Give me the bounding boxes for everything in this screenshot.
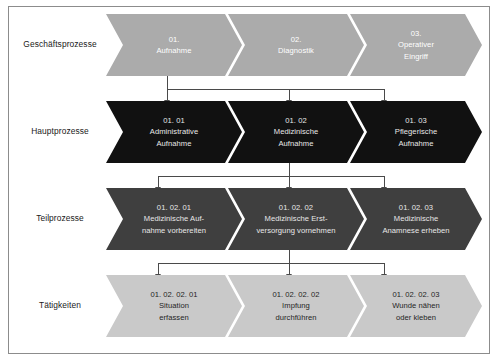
chevron-level1-item-3[interactable]: 03. Operativer Eingriff bbox=[350, 14, 482, 76]
chevron-level2-item-3-line-1: 01. 03 bbox=[405, 115, 426, 127]
chevron-level4-item-1-line-1: 01. 02. 02. 01 bbox=[150, 289, 197, 301]
chevron-level2-item-3-line-2: Pflegerische bbox=[395, 126, 437, 138]
diagram-frame-right-border bbox=[489, 6, 490, 354]
chevron-row-level4: 01. 02. 02. 01 Situation erfassen 01. 02… bbox=[106, 275, 482, 337]
chevron-level4-item-2-line-2: Impfung bbox=[282, 300, 310, 312]
chevron-level2-item-1-line-1: 01. 01 bbox=[163, 115, 184, 127]
chevron-level4-item-2-line-1: 01. 02. 02. 02 bbox=[272, 289, 319, 301]
row-label-teilprozesse: Teilprozesse bbox=[14, 214, 106, 223]
connector-3-bus bbox=[158, 263, 384, 264]
diagram-frame-left-border bbox=[8, 6, 9, 354]
chevron-level3-item-2-line-3: versorgung vornehmen bbox=[256, 225, 335, 237]
connector-1-bus bbox=[167, 89, 385, 90]
chevron-level3-item-2-line-2: Medizinische Erst- bbox=[265, 213, 328, 225]
chevron-level2-item-2-line-2: Medizinische bbox=[274, 126, 319, 138]
chevron-level1-item-1-line-1: 01. bbox=[169, 34, 180, 46]
chevron-row-level2: 01. 01 Administrative Aufnahme 01. 02 Me… bbox=[106, 101, 482, 163]
chevron-level1-item-2-line-2: Diagnostik bbox=[278, 45, 314, 57]
chevron-level4-item-1-line-3: erfassen bbox=[159, 312, 189, 324]
chevron-level2-item-3-line-3: Aufnahme bbox=[398, 138, 433, 150]
chevron-level2-item-1-line-3: Aufnahme bbox=[156, 138, 191, 150]
row-label-taetigkeiten: Tätigkeiten bbox=[14, 301, 106, 310]
chevron-level3-item-1[interactable]: 01. 02. 01 Medizinische Auf- nahme vorbe… bbox=[106, 188, 242, 250]
diagram-frame-top-border bbox=[8, 6, 490, 7]
chevron-row-level3: 01. 02. 01 Medizinische Auf- nahme vorbe… bbox=[106, 188, 482, 250]
chevron-level1-item-1-line-2: Aufnahme bbox=[156, 45, 191, 57]
chevron-level2-item-2-line-1: 01. 02 bbox=[285, 115, 306, 127]
chevron-level3-item-2-line-1: 01. 02. 02 bbox=[279, 202, 313, 214]
chevron-level4-item-3[interactable]: 01. 02. 02. 03 Wunde nähen oder kleben bbox=[350, 275, 482, 337]
chevron-level3-item-3-line-2: Medizinische bbox=[394, 213, 439, 225]
chevron-level3-item-2[interactable]: 01. 02. 02 Medizinische Erst- versorgung… bbox=[228, 188, 364, 250]
chevron-row-level1: 01. Aufnahme 02. Diagnostik 03. Operativ… bbox=[106, 14, 482, 76]
chevron-level2-item-3[interactable]: 01. 03 Pflegerische Aufnahme bbox=[350, 101, 482, 163]
chevron-level4-item-3-line-3: oder kleben bbox=[396, 312, 436, 324]
chevron-level1-item-3-line-2: Operativer bbox=[398, 39, 434, 51]
chevron-level2-item-1-line-2: Administrative bbox=[150, 126, 198, 138]
chevron-level1-item-2-line-1: 02. bbox=[291, 34, 302, 46]
row-label-geschaeftsprozesse: Geschäftsprozesse bbox=[14, 40, 106, 49]
chevron-level4-item-2-line-3: durchführen bbox=[275, 312, 316, 324]
chevron-level3-item-3-line-1: 01. 02. 03 bbox=[399, 202, 433, 214]
connector-2-bus bbox=[158, 176, 384, 177]
chevron-level4-item-1-line-2: Situation bbox=[159, 300, 189, 312]
chevron-level1-item-2[interactable]: 02. Diagnostik bbox=[228, 14, 364, 76]
chevron-level1-item-3-line-1: 03. bbox=[411, 28, 422, 40]
diagram-frame-bottom-border bbox=[8, 353, 490, 354]
chevron-level1-item-3-line-3: Eingriff bbox=[404, 51, 428, 63]
chevron-level4-item-3-line-2: Wunde nähen bbox=[392, 300, 440, 312]
chevron-level3-item-1-line-3: nahme vorbereiten bbox=[142, 225, 206, 237]
chevron-level3-item-3[interactable]: 01. 02. 03 Medizinische Anamnese erheben bbox=[350, 188, 482, 250]
chevron-level2-item-2[interactable]: 01. 02 Medizinische Aufnahme bbox=[228, 101, 364, 163]
chevron-level4-item-3-line-1: 01. 02. 02. 03 bbox=[392, 289, 439, 301]
chevron-level1-item-1[interactable]: 01. Aufnahme bbox=[106, 14, 242, 76]
chevron-level3-item-1-line-1: 01. 02. 01 bbox=[157, 202, 191, 214]
chevron-level3-item-3-line-3: Anamnese erheben bbox=[382, 225, 449, 237]
chevron-level3-item-1-line-2: Medizinische Auf- bbox=[144, 213, 204, 225]
chevron-level2-item-2-line-3: Aufnahme bbox=[278, 138, 313, 150]
chevron-level4-item-2[interactable]: 01. 02. 02. 02 Impfung durchführen bbox=[228, 275, 364, 337]
row-label-hauptprozesse: Hauptprozesse bbox=[14, 127, 106, 136]
chevron-level4-item-1[interactable]: 01. 02. 02. 01 Situation erfassen bbox=[106, 275, 242, 337]
chevron-level2-item-1[interactable]: 01. 01 Administrative Aufnahme bbox=[106, 101, 242, 163]
process-hierarchy-diagram: Geschäftsprozesse 01. Aufnahme 02. Diagn… bbox=[0, 0, 498, 360]
